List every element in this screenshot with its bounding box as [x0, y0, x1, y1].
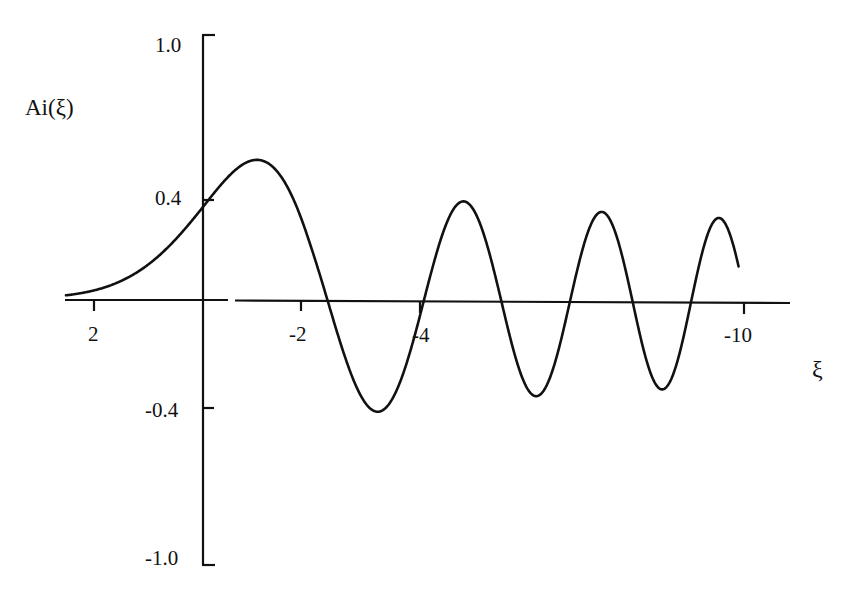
y-tick-label-1.0: 1.0	[155, 35, 181, 56]
x-tick-label-neg10: -10	[724, 325, 752, 346]
y-tick-label-neg0.4: -0.4	[145, 400, 178, 421]
x-tick-label-neg2: -2	[289, 324, 307, 345]
y-axis-label: Ai(ξ)	[25, 96, 74, 119]
x-tick-label-2: 2	[88, 324, 99, 345]
x-tick-label-neg4: -4	[412, 325, 430, 346]
y-tick-label-neg1.0: -1.0	[145, 548, 178, 569]
x-axis-label: ξ	[812, 357, 823, 381]
airy-function-chart	[0, 0, 857, 593]
x-axis	[65, 300, 790, 314]
y-tick-label-0.4: 0.4	[155, 188, 181, 209]
